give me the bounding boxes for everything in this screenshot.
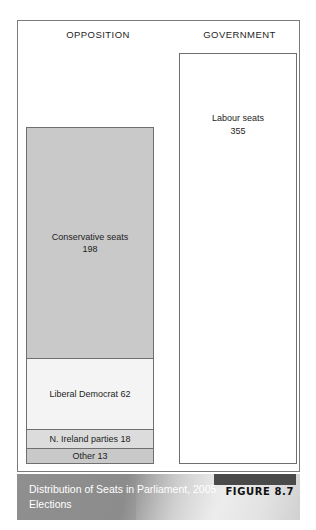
bar-label-conservative-value: 198 [52,243,129,256]
bar-other: Other 13 [26,448,154,464]
bar-liberal-democrat: Liberal Democrat 62 [26,358,154,430]
bar-label-liberal-democrat: Liberal Democrat 62 [49,388,130,401]
figure-caption-title: Distribution of Seats in Parliament, 200… [29,482,229,512]
column-heading-opposition: OPPOSITION [18,29,178,40]
bar-label-other: Other 13 [72,450,107,463]
bar-conservative-seats: Conservative seats 198 [26,127,154,359]
bar-n-ireland-parties: N. Ireland parties 18 [26,429,154,449]
figure-frame: OPPOSITION GOVERNMENT Labour seats 355 C… [17,20,300,472]
bar-label-conservative-name: Conservative seats [52,231,129,244]
bar-label-labour-name: Labour seats [180,112,296,125]
opposition-bar-stack: Conservative seats 198 Liberal Democrat … [26,127,154,464]
column-heading-government: GOVERNMENT [178,29,301,40]
figure-caption-bar: Distribution of Seats in Parliament, 200… [17,474,300,520]
figure-number-label: FIGURE 8.7 [225,486,294,497]
bar-labour-seats: Labour seats 355 [179,53,297,464]
bar-label-conservative: Conservative seats 198 [52,231,129,256]
bar-label-labour-value: 355 [180,125,296,138]
bar-label-labour: Labour seats 355 [180,112,296,137]
bar-label-n-ireland-parties: N. Ireland parties 18 [49,433,130,446]
